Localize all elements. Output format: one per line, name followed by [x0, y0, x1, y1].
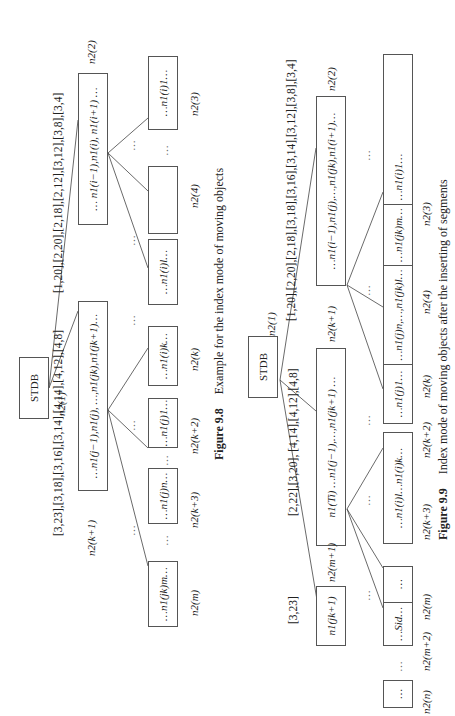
- fig99-caption: Figure 9.9Index mode of moving objects a…: [436, 179, 451, 540]
- fig98-leaf-id: n2(3): [188, 92, 200, 116]
- fig98-leaf-id: n2(m): [188, 590, 200, 616]
- fig99-leaf-id: n2(k): [420, 375, 432, 398]
- fig99-leaf-id: n2(4): [420, 290, 432, 314]
- fig99-ellipsis: …: [360, 495, 372, 506]
- node-content: n1(Ti) …n1(j−1),…,n1(jk+1) …: [325, 377, 337, 518]
- node-content: …n1(j)n,…,n1(jk)l…: [392, 269, 404, 360]
- fig99-leaf-n2-m2: …: [384, 567, 412, 602]
- node-content: …n1(i)1…: [392, 154, 404, 200]
- fig99-node-n2-2: …n1(i−1),n1(j),…,n1(jk),n1(i+1)…: [316, 96, 346, 286]
- fig99-left-interval: [1,20],[2,20],[2,18],[3,18],[3,16],[3,14…: [285, 59, 297, 321]
- fig99-root-node-id: n2(1): [265, 312, 277, 336]
- fig99-leaf-id: n2(m+2): [420, 632, 432, 671]
- fig99-node-id: n2(2): [325, 67, 337, 91]
- fig99-middle-interval: [2,22],[3,20], [4,14],[4,12],[4,8]: [287, 368, 299, 516]
- fig99-leaf-id: n2(3): [420, 202, 432, 226]
- node-content: …: [392, 579, 404, 590]
- fig99-leaf-id: n2(m): [420, 594, 432, 620]
- fig98-caption: Figure 9.8Example for the index mode of …: [212, 168, 227, 460]
- fig98-left-interval: [1,20],[2,20],[2,18],[2,12],[3,12],[3,8]…: [52, 93, 64, 293]
- fig98-leaf-n2-k2: …n1(j)1…: [148, 398, 178, 448]
- fig99-leaf-id: n2(k+3): [420, 504, 432, 540]
- fig99-node-id: n2(m+1): [325, 543, 337, 582]
- fig98-leaf-n2-k: …n1(i)k…: [148, 326, 178, 386]
- fig99-leaf-strip-right: …Sid… …: [383, 566, 413, 646]
- node-content: …n1(i)k…: [157, 333, 169, 379]
- fig98-leaf-n2-m: …n1(jk)m…: [148, 561, 178, 627]
- fig98-root-stdb: STDB: [19, 357, 49, 419]
- fig99-leaf-strip-left: …n1(j)1… …n1(j)n,…,n1(jk)l… …n1(jk)m… …n…: [383, 54, 413, 424]
- node-content: …Sid…: [392, 607, 404, 641]
- fig99-node-n2-m1: n1(jk+1): [316, 586, 346, 646]
- fig99-leaf-n2-k2: …n1(i)1…: [384, 150, 412, 204]
- node-content: …n1(i)1…: [157, 70, 169, 116]
- fig98-node-id-n2-2: n2(2): [85, 40, 97, 64]
- node-content: …n1(i−1),n1(j),…,n1(jk),n1(i+1)…: [325, 113, 337, 270]
- fig98-node-id-n2-k1: n2(k+1): [85, 520, 97, 556]
- fig99-root-label: STDB: [257, 353, 269, 381]
- fig99-ellipsis: …: [360, 590, 372, 601]
- fig98-leaf-n2-3-hidden: [148, 166, 178, 234]
- fig98-leaf-id: n2(4): [188, 184, 200, 208]
- fig98-ellipsis: …: [125, 235, 137, 246]
- fig98-leaf-n2-k3: …n1(j)n…: [148, 468, 178, 524]
- fig98-leaf-id: n2(k+3): [188, 492, 200, 528]
- fig98-leaf-n2-3: …n1(i)1…: [148, 56, 178, 130]
- fig99-caption-text: Index mode of moving objects after the i…: [436, 179, 450, 474]
- node-content: …n1(i)l…: [157, 250, 169, 294]
- node-content: n1(jk+1): [325, 596, 337, 635]
- fig98-leaf-id: n2(k): [188, 348, 200, 371]
- fig99-leaf-id: n2(k+2): [420, 422, 432, 458]
- fig98-node-n2-2: … n1(i−1),n1(i), n1(i+1) …: [78, 73, 108, 225]
- fig98-leaf-id: n2(k+2): [188, 418, 200, 454]
- fig99-node-n2-k1: n1(Ti) …n1(j−1),…,n1(jk+1) …: [316, 348, 346, 546]
- fig99-right-interval: [3,23]: [287, 596, 299, 624]
- node-content: …n1(j−1),n1(j), …,n1(jk),n1(jk+1)…: [87, 314, 99, 478]
- fig99-node-id: n2(k+1): [325, 306, 337, 342]
- fig99-ellipsis: …: [360, 150, 372, 161]
- node-content: …: [392, 689, 404, 700]
- fig98-ellipsis: …: [158, 455, 170, 466]
- fig99-root-stdb: STDB: [248, 336, 278, 398]
- node-content: …n1(i)l…n1(i)k…: [392, 448, 404, 528]
- node-content: …n1(jk)m…: [392, 208, 404, 262]
- fig99-ellipsis: …: [360, 285, 372, 296]
- fig99-leaf-id: n2(n): [420, 690, 432, 714]
- fig99-leaf-n2-k: …n1(jk)m…: [384, 204, 412, 265]
- fig98-caption-text: Example for the index mode of moving obj…: [212, 168, 226, 394]
- node-content: …n1(j)1…: [392, 371, 404, 417]
- fig98-leaf-n2-4: …n1(i)l…: [148, 239, 178, 305]
- fig99-leaf-n2-3: …n1(j)1…: [384, 364, 412, 423]
- node-content: … n1(i−1),n1(i), n1(i+1) …: [87, 87, 99, 210]
- fig98-ellipsis: …: [125, 525, 137, 536]
- fig99-caption-number: Figure 9.9: [436, 488, 450, 540]
- fig99-leaf-n2-n: …: [383, 680, 413, 708]
- fig98-right-interval: [3,23],[3,18],[3,16],[3,14],[4,14],[4,12…: [52, 330, 64, 536]
- fig98-caption-number: Figure 9.8: [212, 408, 226, 460]
- fig98-root-label: STDB: [28, 374, 40, 402]
- fig99-ellipsis: …: [360, 415, 372, 426]
- fig98-node-n2-k1: …n1(j−1),n1(j), …,n1(jk),n1(jk+1)…: [78, 301, 108, 491]
- rotated-book-page: STDB n2(1) [1,20],[2,20],[2,18],[2,12],[…: [0, 0, 455, 716]
- fig98-ellipsis: …: [125, 140, 137, 151]
- fig98-ellipsis: …: [125, 315, 137, 326]
- fig99-leaf-n2-4: …n1(j)n,…,n1(jk)l…: [384, 265, 412, 364]
- fig99-ellipsis: …: [392, 661, 404, 672]
- node-content: …n1(jk)m…: [157, 567, 169, 621]
- fig99-leaf-n2-m: …Sid…: [384, 602, 412, 645]
- fig98-ellipsis: …: [158, 535, 170, 546]
- fig98-ellipsis: …: [158, 145, 170, 156]
- fig98-ellipsis: …: [125, 420, 137, 431]
- fig99-leaf-n2-k3: …n1(i)l…n1(i)k…: [383, 432, 413, 544]
- node-content: …n1(j)1…: [157, 400, 169, 446]
- node-content: …n1(j)n…: [157, 473, 169, 519]
